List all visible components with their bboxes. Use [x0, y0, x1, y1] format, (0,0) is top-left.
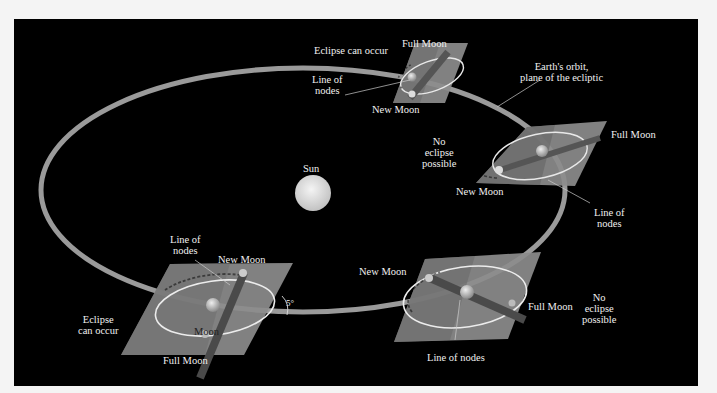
label-right-new-moon: New Moon: [456, 186, 504, 197]
label-br-new-moon: New Moon: [359, 266, 407, 277]
label-angle: 5°: [286, 298, 294, 309]
label-right-no-eclipse: No eclipse possible: [422, 136, 456, 169]
label-bl-full-moon: Full Moon: [163, 355, 208, 366]
label-br-full-moon: Full Moon: [528, 301, 573, 312]
label-bl-eclipse: Eclipse can occur: [78, 314, 119, 336]
label-ecliptic: Earth's orbit, plane of the ecliptic: [520, 61, 603, 83]
label-sun: Sun: [303, 163, 319, 174]
moon-orbit-right: [471, 80, 607, 203]
label-bl-line-of-nodes: Line of nodes: [170, 234, 201, 256]
label-top-new-moon: New Moon: [372, 104, 420, 115]
label-br-no-eclipse: No eclipse possible: [582, 292, 616, 325]
label-right-full-moon: Full Moon: [611, 129, 656, 140]
label-right-line-of-nodes: Line of nodes: [594, 207, 625, 229]
label-bl-moon: Moon: [194, 326, 219, 337]
moon-orbit-bottom-right: [394, 252, 541, 342]
label-br-line-of-nodes: Line of nodes: [427, 352, 485, 363]
label-top-eclipse: Eclipse can occur: [314, 45, 388, 56]
label-bl-new-moon: New Moon: [218, 254, 266, 265]
sun-icon: [295, 175, 331, 211]
label-top-line-of-nodes: Line of nodes: [312, 74, 343, 96]
label-top-full-moon: Full Moon: [402, 38, 447, 49]
